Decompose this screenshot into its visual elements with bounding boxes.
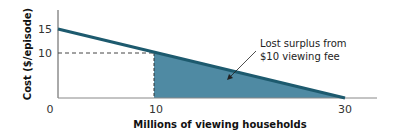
y-tick-15: 15 bbox=[38, 23, 52, 36]
x-tick-10: 10 bbox=[149, 103, 163, 116]
y-tick-10: 10 bbox=[38, 47, 52, 60]
chart: 15 10 0 10 30 Cost ($/episode) Millions … bbox=[0, 0, 397, 136]
x-tick-30: 30 bbox=[338, 103, 352, 116]
annotation-line-2: $10 viewing fee bbox=[260, 51, 340, 62]
x-tick-0: 0 bbox=[47, 103, 54, 116]
annotation-line-1: Lost surplus from bbox=[260, 38, 347, 49]
x-axis-title: Millions of viewing households bbox=[133, 119, 306, 130]
y-axis-title: Cost ($/episode) bbox=[22, 8, 33, 100]
